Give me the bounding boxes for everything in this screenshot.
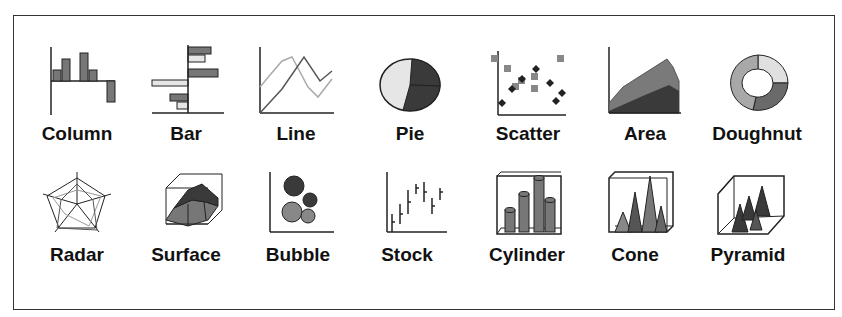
chart-type-label: Scatter xyxy=(478,123,578,145)
pyramid-chart-icon xyxy=(708,170,788,238)
chart-type-label: Column xyxy=(27,123,127,145)
chart-type-label: Doughnut xyxy=(707,123,807,145)
chart-type-doughnut[interactable]: Doughnut xyxy=(707,45,807,145)
column-chart-icon xyxy=(37,45,117,117)
doughnut-chart-icon xyxy=(717,45,797,117)
chart-type-label: Surface xyxy=(136,244,236,266)
chart-type-pyramid[interactable]: Pyramid xyxy=(698,170,798,266)
chart-type-stock[interactable]: Stock xyxy=(357,170,457,266)
surface-chart-icon xyxy=(146,170,226,238)
chart-type-label: Pyramid xyxy=(698,244,798,266)
chart-type-bubble[interactable]: Bubble xyxy=(248,170,348,266)
chart-type-cylinder[interactable]: Cylinder xyxy=(477,170,577,266)
bubble-chart-icon xyxy=(258,170,338,238)
bar-chart-icon xyxy=(146,45,226,117)
chart-type-label: Area xyxy=(595,123,695,145)
chart-type-line[interactable]: Line xyxy=(246,45,346,145)
area-chart-icon xyxy=(605,45,685,117)
chart-type-label: Bar xyxy=(136,123,236,145)
chart-type-cone[interactable]: Cone xyxy=(585,170,685,266)
pie-chart-icon xyxy=(370,45,450,117)
chart-type-label: Bubble xyxy=(248,244,348,266)
radar-chart-icon xyxy=(37,170,117,238)
line-chart-icon xyxy=(256,45,336,117)
cone-chart-icon xyxy=(595,170,675,238)
chart-type-surface[interactable]: Surface xyxy=(136,170,236,266)
stock-chart-icon xyxy=(367,170,447,238)
chart-type-label: Cylinder xyxy=(477,244,577,266)
chart-type-pie[interactable]: Pie xyxy=(360,45,460,145)
chart-type-area[interactable]: Area xyxy=(595,45,695,145)
chart-type-scatter[interactable]: Scatter xyxy=(478,45,578,145)
chart-type-bar[interactable]: Bar xyxy=(136,45,236,145)
cylinder-chart-icon xyxy=(487,170,567,238)
chart-type-column[interactable]: Column xyxy=(27,45,127,145)
chart-type-radar[interactable]: Radar xyxy=(27,170,127,266)
chart-type-label: Cone xyxy=(585,244,685,266)
chart-type-label: Line xyxy=(246,123,346,145)
chart-type-label: Radar xyxy=(27,244,127,266)
chart-type-label: Stock xyxy=(357,244,457,266)
chart-type-label: Pie xyxy=(360,123,460,145)
scatter-chart-icon xyxy=(488,45,568,117)
